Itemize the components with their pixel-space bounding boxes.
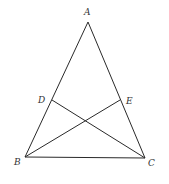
label-e: E xyxy=(125,96,133,106)
segment-be xyxy=(25,100,120,157)
label-a: A xyxy=(83,7,91,17)
label-d: D xyxy=(37,95,45,105)
label-c: C xyxy=(148,158,155,168)
segment-cd xyxy=(52,100,145,158)
segment-bc xyxy=(25,157,145,158)
segment-ac xyxy=(88,22,145,158)
triangle-diagram: A B C D E xyxy=(0,0,169,184)
label-b: B xyxy=(13,157,21,167)
segment-ab xyxy=(25,22,88,157)
segments xyxy=(25,22,145,158)
